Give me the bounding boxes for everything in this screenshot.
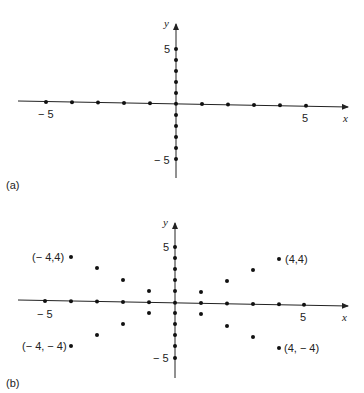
label-neg4-neg4: (− 4, − 4) bbox=[22, 340, 67, 352]
panel-b: y x − 5 5 5 − 5 (− 4,4) (4,4) (− 4, − 4)… bbox=[6, 216, 348, 389]
x-axis-label-a: x bbox=[342, 112, 348, 124]
x-tick-neg5-a: − 5 bbox=[38, 108, 54, 120]
x-axis-a bbox=[18, 101, 348, 107]
x-tick-5-b: 5 bbox=[300, 311, 306, 323]
label-4-neg4: (4, − 4) bbox=[284, 342, 319, 354]
panel-a: y x − 5 5 5 − 5 (a) bbox=[6, 17, 348, 191]
x-tick-5-a: 5 bbox=[302, 112, 308, 124]
y-tick-5-a: 5 bbox=[164, 43, 170, 55]
x-axis-label-b: x bbox=[341, 311, 347, 323]
y-tick-5-b: 5 bbox=[163, 241, 169, 253]
caption-a: (a) bbox=[6, 179, 19, 191]
label-4-4: (4,4) bbox=[285, 253, 308, 265]
y-axis-label-a: y bbox=[163, 17, 169, 29]
caption-b: (b) bbox=[6, 377, 19, 389]
diagram-canvas: y x − 5 5 5 − 5 (a) bbox=[0, 0, 364, 393]
y-tick-neg5-a: − 5 bbox=[154, 154, 170, 166]
label-neg4-4: (− 4,4) bbox=[32, 251, 64, 263]
y-tick-neg5-b: − 5 bbox=[153, 352, 169, 364]
x-axis-b bbox=[18, 300, 348, 306]
x-tick-neg5-b: − 5 bbox=[37, 308, 53, 320]
y-axis-label-b: y bbox=[162, 216, 168, 228]
